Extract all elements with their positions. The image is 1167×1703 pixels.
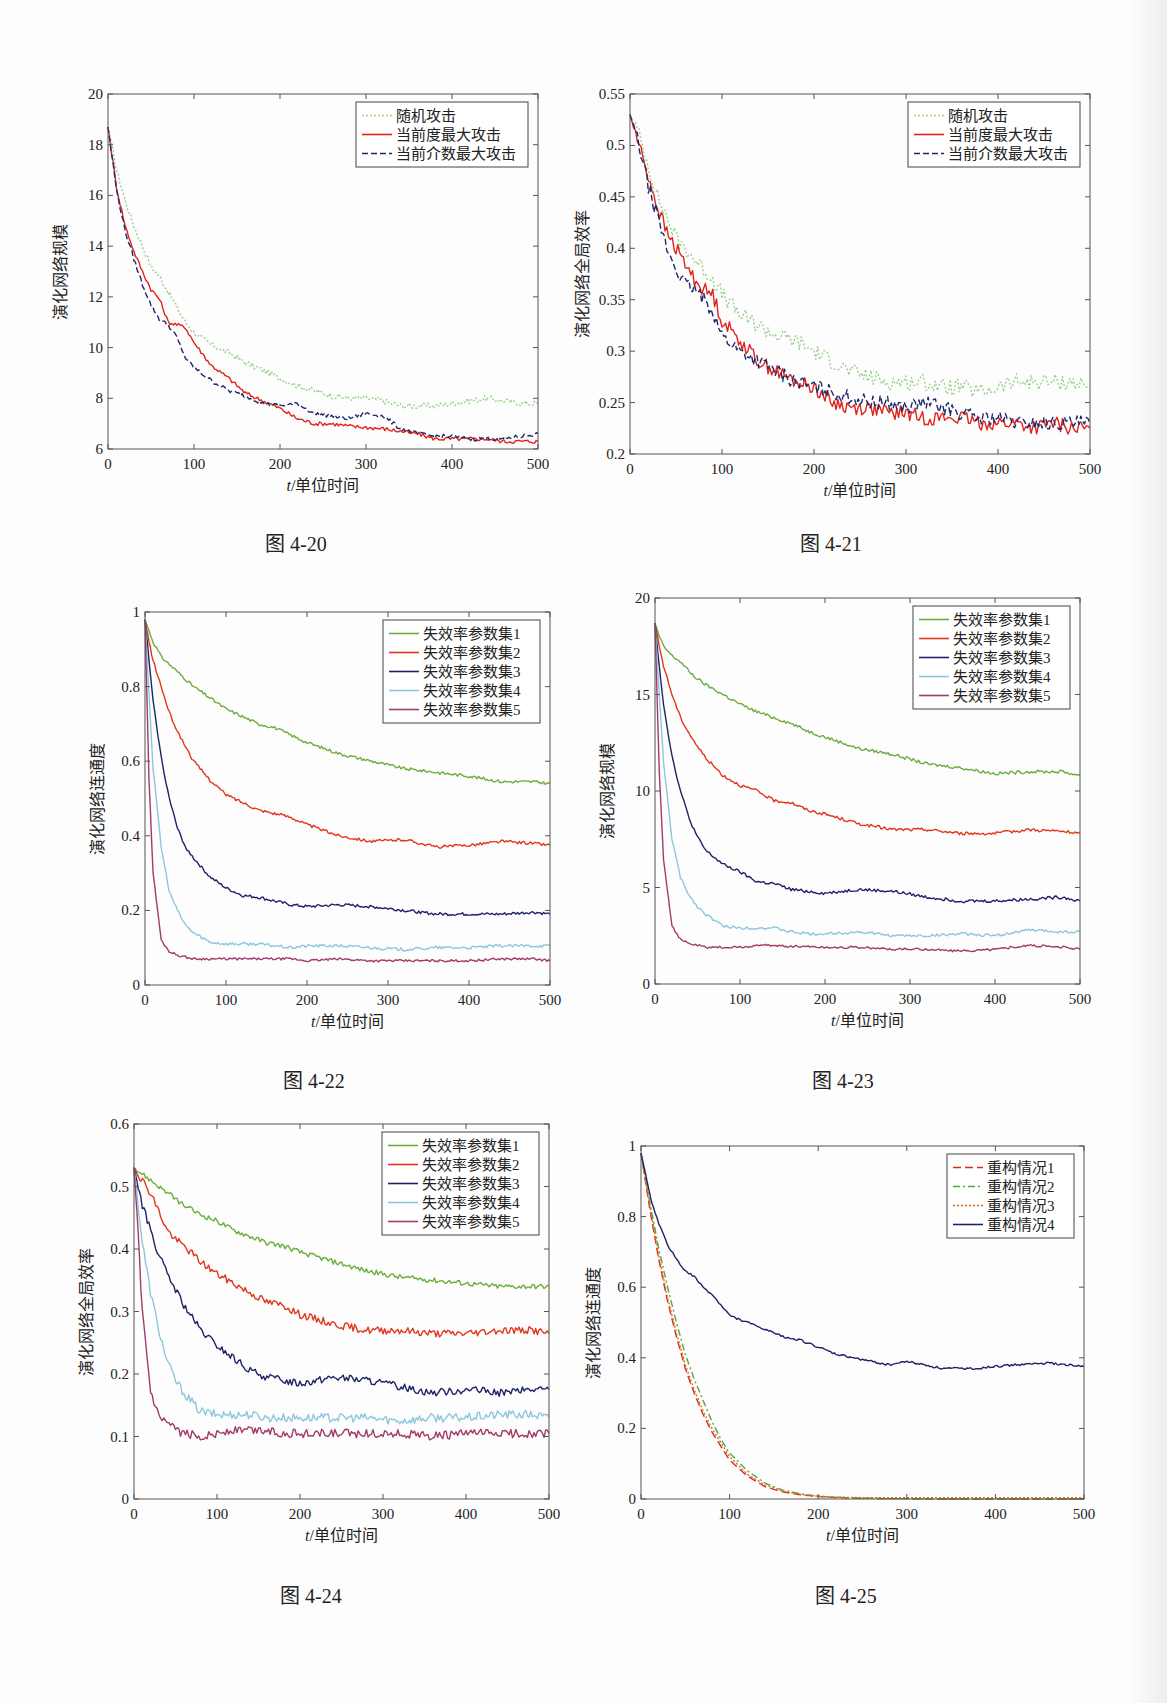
x-tick-label: 0 <box>130 1506 138 1522</box>
y-tick-label: 0.6 <box>110 1116 129 1132</box>
legend-entry: 重构情况3 <box>987 1198 1055 1214</box>
chart-plot-area: 010020030040050000.20.40.60.81t/单位时间演化网络… <box>641 1146 1084 1499</box>
y-axis-label: 演化网络连通度 <box>88 743 106 855</box>
x-tick-label: 200 <box>269 456 292 472</box>
y-tick-label: 0.45 <box>599 189 625 205</box>
x-tick-label: 400 <box>984 991 1007 1007</box>
x-tick-label: 400 <box>987 461 1010 477</box>
x-tick-label: 300 <box>372 1506 395 1522</box>
figure-4-24: 010020030040050000.10.20.30.40.50.6t/单位时… <box>134 1124 549 1499</box>
y-tick-label: 20 <box>635 590 650 606</box>
y-tick-label: 20 <box>88 86 103 102</box>
x-tick-label: 500 <box>527 456 550 472</box>
x-axis-label: t/单位时间 <box>824 482 897 499</box>
x-tick-label: 200 <box>289 1506 312 1522</box>
y-tick-label: 0.6 <box>121 753 140 769</box>
y-tick-label: 0.4 <box>110 1241 129 1257</box>
legend-entry: 失效率参数集5 <box>422 1214 520 1230</box>
chart-plot-area: 010020030040050000.10.20.30.40.50.6t/单位时… <box>134 1124 549 1499</box>
legend-entry: 失效率参数集1 <box>423 626 521 642</box>
x-tick-label: 500 <box>1069 991 1092 1007</box>
x-tick-label: 500 <box>1073 1506 1096 1522</box>
x-tick-label: 300 <box>899 991 922 1007</box>
caption-4-24: 图 4-24 <box>280 1580 342 1609</box>
x-axis-label: t/单位时间 <box>311 1013 384 1030</box>
x-tick-label: 100 <box>183 456 206 472</box>
y-tick-label: 0.25 <box>599 395 625 411</box>
y-tick-label: 0 <box>643 976 651 992</box>
x-tick-label: 100 <box>206 1506 229 1522</box>
legend-entry: 当前介数最大攻击 <box>948 146 1068 162</box>
y-tick-label: 0 <box>629 1491 637 1507</box>
y-tick-label: 0.4 <box>617 1350 636 1366</box>
page-edge-shadow <box>1127 0 1167 1703</box>
y-tick-label: 5 <box>643 880 651 896</box>
y-tick-label: 0.35 <box>599 292 625 308</box>
legend-entry: 当前度最大攻击 <box>396 127 501 143</box>
x-tick-label: 400 <box>458 992 481 1008</box>
y-tick-label: 0.2 <box>121 902 140 918</box>
y-axis-label: 演化网络全局效率 <box>77 1248 95 1376</box>
x-tick-label: 0 <box>637 1506 645 1522</box>
legend-entry: 重构情况2 <box>987 1179 1055 1195</box>
y-tick-label: 0 <box>133 977 141 993</box>
x-tick-label: 100 <box>215 992 238 1008</box>
y-tick-label: 18 <box>88 137 103 153</box>
y-tick-label: 0.8 <box>121 679 140 695</box>
y-axis-label: 演化网络连通度 <box>584 1267 602 1379</box>
y-tick-label: 0.5 <box>110 1179 129 1195</box>
chart-plot-area: 01002003004005000.20.250.30.350.40.450.5… <box>630 94 1090 454</box>
x-tick-label: 500 <box>539 992 562 1008</box>
caption-4-25: 图 4-25 <box>815 1580 877 1609</box>
x-tick-label: 300 <box>377 992 400 1008</box>
y-tick-label: 12 <box>88 289 103 305</box>
legend-entry: 失效率参数集4 <box>423 683 521 699</box>
y-tick-label: 15 <box>635 687 650 703</box>
x-tick-label: 200 <box>807 1506 830 1522</box>
x-tick-label: 400 <box>984 1506 1007 1522</box>
caption-4-23: 图 4-23 <box>812 1065 874 1094</box>
y-tick-label: 0.2 <box>617 1420 636 1436</box>
figure-4-25: 010020030040050000.20.40.60.81t/单位时间演化网络… <box>641 1146 1084 1499</box>
y-axis-label: 演化网络规模 <box>598 743 616 839</box>
legend-entry: 失效率参数集3 <box>953 650 1051 666</box>
y-tick-label: 6 <box>96 441 104 457</box>
legend: 重构情况1重构情况2重构情况3重构情况4 <box>947 1154 1074 1238</box>
x-tick-label: 100 <box>729 991 752 1007</box>
x-tick-label: 0 <box>651 991 659 1007</box>
legend-entry: 失效率参数集2 <box>423 645 521 661</box>
legend-entry: 失效率参数集3 <box>422 1176 520 1192</box>
x-tick-label: 300 <box>895 461 918 477</box>
legend-entry: 失效率参数集4 <box>953 669 1051 685</box>
chart-plot-area: 010020030040050000.20.40.60.81t/单位时间演化网络… <box>145 612 550 985</box>
chart-plot-area: 010020030040050068101214161820t/单位时间演化网络… <box>108 94 538 449</box>
caption-4-22: 图 4-22 <box>283 1065 345 1094</box>
legend-entry: 失效率参数集4 <box>422 1195 520 1211</box>
figure-4-22: 010020030040050000.20.40.60.81t/单位时间演化网络… <box>145 612 550 985</box>
legend-entry: 失效率参数集5 <box>953 688 1051 704</box>
y-tick-label: 0.2 <box>110 1366 129 1382</box>
y-tick-label: 0.4 <box>606 240 625 256</box>
x-tick-label: 0 <box>104 456 112 472</box>
legend-entry: 失效率参数集2 <box>422 1157 520 1173</box>
series-line <box>108 127 538 443</box>
legend-entry: 失效率参数集5 <box>423 702 521 718</box>
x-tick-label: 500 <box>538 1506 561 1522</box>
y-tick-label: 0 <box>122 1491 130 1507</box>
x-tick-label: 400 <box>441 456 464 472</box>
chart-plot-area: 010020030040050005101520t/单位时间演化网络规模失效率参… <box>655 598 1080 984</box>
x-tick-label: 200 <box>296 992 319 1008</box>
legend-entry: 重构情况1 <box>987 1160 1055 1176</box>
x-tick-label: 100 <box>711 461 734 477</box>
series-line <box>108 127 538 409</box>
legend-entry: 失效率参数集1 <box>953 612 1051 628</box>
y-tick-label: 0.3 <box>606 343 625 359</box>
y-tick-label: 1 <box>629 1138 637 1154</box>
x-tick-label: 300 <box>355 456 378 472</box>
y-tick-label: 14 <box>88 238 104 254</box>
y-tick-label: 10 <box>88 340 103 356</box>
legend-entry: 随机攻击 <box>948 108 1008 124</box>
y-tick-label: 0.4 <box>121 828 140 844</box>
y-tick-label: 0.6 <box>617 1279 636 1295</box>
legend-entry: 失效率参数集1 <box>422 1138 520 1154</box>
